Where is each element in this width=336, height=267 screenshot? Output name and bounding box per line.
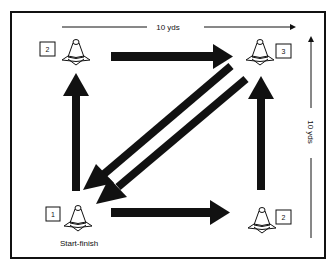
traffic-cone-icon [62,40,90,66]
right-dimension: 10 yds [306,36,315,238]
arrow-diagonal-1 [83,66,231,190]
arrowhead-right-icon [290,24,296,30]
cone-top-left: 2 [40,40,90,66]
cone-number: 2 [46,46,50,53]
cone-number: 3 [282,48,286,55]
start-finish-caption: Start-finish [60,239,98,248]
top-dimension: 10 yds [62,23,296,32]
arrow-right-top [111,44,233,69]
cone-number: 2 [282,214,286,221]
cone-top-right: 3 [246,40,291,66]
arrow-up-right [248,76,274,190]
cone-number: 1 [51,211,55,218]
arrow-right-bottom [111,200,230,225]
traffic-cone-icon [64,206,92,232]
cone-bottom-left: 1 Start-finish [46,206,98,249]
right-dimension-label: 10 yds [306,120,315,144]
arrow-up-left [63,73,89,191]
top-dimension-label: 10 yds [156,23,180,32]
arrow-diagonal-2 [96,79,246,204]
traffic-cone-icon [248,208,276,234]
arrowhead-up-icon [308,36,314,42]
traffic-cone-icon [246,40,274,66]
cone-bottom-right: 2 [248,208,291,234]
drill-diagram: 10 yds 10 yds 2 3 1 Start-finish 2 [0,0,336,267]
